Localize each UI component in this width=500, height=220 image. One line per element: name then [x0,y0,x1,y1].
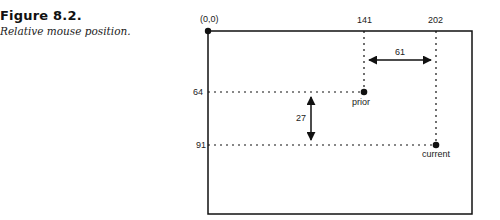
prior-x-label: 141 [357,15,372,25]
current-x-label: 202 [428,15,443,25]
origin-dot [205,28,211,34]
screen-boundary [208,31,472,214]
origin-label: (0,0) [200,14,219,24]
dx-label: 61 [395,47,405,57]
current-point [433,142,440,149]
prior-point [361,89,368,96]
current-y-label: 91 [196,140,206,150]
dy-label: 27 [296,113,306,123]
prior-y-label: 64 [193,87,203,97]
current-label: current [422,149,451,159]
mouse-position-diagram: (0,0) 141 202 64 91 61 27 prior current [0,0,500,220]
prior-label: prior [352,97,370,107]
